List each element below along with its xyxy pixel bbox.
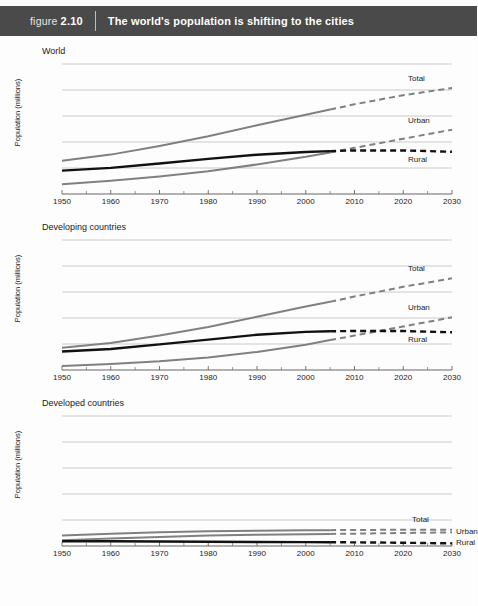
x-axis-tick-label: 1990	[240, 197, 274, 206]
x-axis-tick-label: 1980	[191, 197, 225, 206]
x-axis-tick-label: 1960	[94, 373, 128, 382]
series-line-rural-actual	[62, 331, 330, 351]
series-line-rural-actual	[62, 541, 330, 542]
plot-area	[62, 240, 452, 370]
x-axis-tick-label: 1970	[143, 197, 177, 206]
chart-title: World	[42, 46, 65, 56]
series-label-rural: Rural	[408, 155, 427, 164]
x-axis-tick-label: 1960	[94, 197, 128, 206]
chart-title: Developing countries	[42, 222, 126, 232]
plot-area	[62, 64, 452, 194]
x-axis-tick-label: 1950	[45, 549, 79, 558]
x-axis-tick-label: 1970	[143, 549, 177, 558]
x-axis-tick-label: 1970	[143, 373, 177, 382]
y-axis-label: Population (millions)	[13, 58, 22, 168]
x-axis-tick-label: 2010	[338, 373, 372, 382]
x-axis-tick-label: 1950	[45, 197, 79, 206]
chart-panel-developed: Developed countriesPopulation (millions)…	[0, 398, 477, 598]
x-axis-tick-label: 1990	[240, 373, 274, 382]
y-axis-label: Population (millions)	[13, 234, 22, 344]
series-label-urban: Urban	[456, 527, 478, 536]
figure-number: 2.10	[61, 15, 83, 27]
series-line-rural-projected	[330, 150, 452, 151]
x-axis-tick-label: 1960	[94, 549, 128, 558]
x-axis-tick-label: 2020	[386, 549, 420, 558]
series-label-total: Total	[408, 74, 425, 83]
series-label-total: Total	[408, 264, 425, 273]
x-axis-tick-label: 1980	[191, 549, 225, 558]
x-axis-tick-label: 1990	[240, 549, 274, 558]
x-axis-tick-label: 2000	[289, 197, 323, 206]
x-axis-tick-label: 1950	[45, 373, 79, 382]
chart-panel-world: WorldPopulation (millions)02468101950196…	[0, 46, 477, 222]
plot-area	[62, 416, 452, 546]
series-label-total: Total	[412, 515, 429, 524]
x-axis-tick-label: 2000	[289, 549, 323, 558]
chart-title: Developed countries	[42, 398, 124, 408]
x-axis-tick-label: 2010	[338, 197, 372, 206]
series-label-urban: Urban	[408, 116, 430, 125]
x-axis-tick-label: 2000	[289, 373, 323, 382]
series-line-urban-projected	[330, 532, 452, 534]
series-line-rural-projected	[330, 542, 452, 543]
chart-panel-developing: Developing countriesPopulation (millions…	[0, 222, 477, 398]
series-line-rural-projected	[330, 331, 452, 332]
series-line-urban-projected	[330, 317, 452, 340]
header-divider	[95, 11, 96, 31]
x-axis-tick-label: 2030	[435, 373, 469, 382]
x-axis-tick-label: 2010	[338, 549, 372, 558]
series-label-urban: Urban	[408, 303, 430, 312]
figure-number-label: figure 2.10	[0, 15, 83, 27]
series-line-total-projected	[330, 278, 452, 301]
x-axis-tick-label: 2030	[435, 549, 469, 558]
page-title: The world's population is shifting to th…	[108, 15, 354, 27]
series-line-urban-projected	[330, 130, 452, 153]
series-line-total-projected	[330, 88, 452, 109]
x-axis-tick-label: 2020	[386, 373, 420, 382]
figure-header-bar: figure 2.10 The world's population is sh…	[0, 6, 477, 36]
figure-word: figure	[30, 15, 57, 27]
series-label-rural: Rural	[456, 538, 475, 547]
x-axis-tick-label: 2030	[435, 197, 469, 206]
series-label-rural: Rural	[408, 335, 427, 344]
y-axis-label: Population (millions)	[13, 410, 22, 520]
x-axis-tick-label: 1980	[191, 373, 225, 382]
x-axis-tick-label: 2020	[386, 197, 420, 206]
